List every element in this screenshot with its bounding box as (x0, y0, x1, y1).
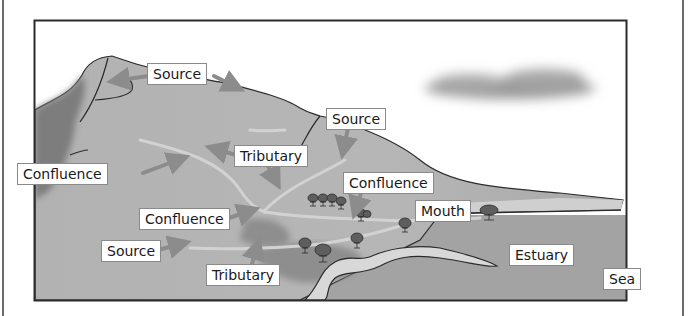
label-confluence-2: Confluence (343, 172, 434, 194)
label-mouth: Mouth (415, 200, 471, 222)
label-source-2: Source (326, 108, 386, 130)
label-confluence-1: Confluence (17, 163, 108, 185)
label-tributary-2: Tributary (206, 264, 280, 286)
label-confluence-3: Confluence (139, 208, 230, 230)
label-source-1: Source (147, 63, 207, 85)
river-diagram: Source Source Tributary Confluence Confl… (0, 0, 692, 316)
landscape-illustration (0, 0, 692, 316)
label-source-3: Source (101, 240, 161, 262)
label-tributary-1: Tributary (234, 145, 308, 167)
label-estuary: Estuary (509, 244, 574, 266)
label-sea: Sea (603, 268, 641, 290)
